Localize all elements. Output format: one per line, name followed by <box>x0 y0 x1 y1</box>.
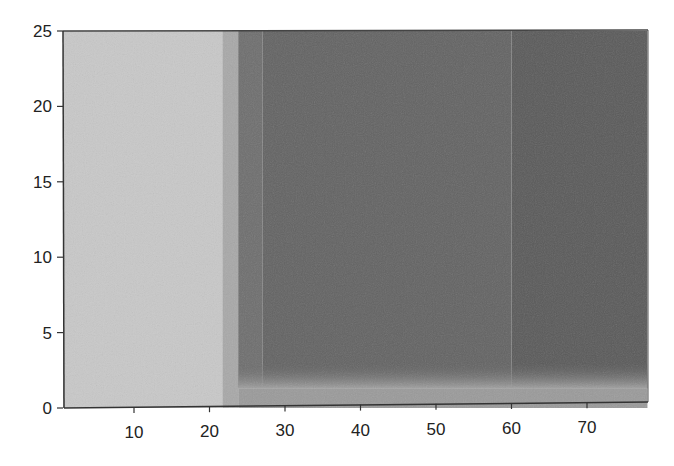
y-tick-label: 20 <box>33 97 52 116</box>
x-tick-label: 60 <box>502 419 521 438</box>
x-tick-label: 20 <box>200 422 219 441</box>
x-tick-label: 30 <box>276 421 295 440</box>
x-axis-ticks: 10203040506070 <box>125 402 597 442</box>
x-tick-label: 70 <box>578 418 597 437</box>
y-tick-label: 10 <box>33 248 52 267</box>
y-axis-ticks: 0510152025 <box>33 22 63 418</box>
y-tick-label: 5 <box>43 324 52 343</box>
top-spine <box>63 30 648 31</box>
y-tick-label: 25 <box>33 22 52 41</box>
noise-texture <box>63 31 648 408</box>
x-tick-label: 40 <box>351 421 370 440</box>
heatmap-chart: 10203040506070 0510152025 <box>0 0 674 466</box>
y-tick-label: 0 <box>43 399 52 418</box>
x-tick-label: 50 <box>427 420 446 439</box>
y-axis-line <box>63 31 64 408</box>
y-tick-label: 15 <box>33 173 52 192</box>
x-tick-label: 10 <box>125 423 144 442</box>
